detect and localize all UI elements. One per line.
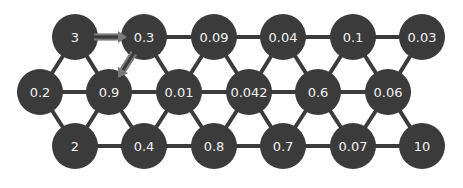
node-label: 0.9 [99, 85, 120, 100]
graph-node: 0.09 [191, 14, 237, 60]
lattice-graph: 30.30.090.040.10.030.20.90.010.0420.60.0… [0, 0, 463, 188]
node-label: 0.8 [204, 139, 225, 154]
graph-node: 0.07 [330, 123, 376, 169]
node-label: 0.07 [339, 139, 368, 154]
graph-node: 10 [399, 123, 445, 169]
graph-node: 0.03 [399, 14, 445, 60]
node-label: 0.04 [269, 30, 298, 45]
node-label: 0.03 [408, 30, 437, 45]
node-label: 0.3 [134, 30, 155, 45]
node-label: 10 [414, 139, 431, 154]
node-label: 2 [71, 139, 79, 154]
graph-node: 0.042 [226, 69, 272, 115]
graph-node: 0.06 [365, 69, 411, 115]
graph-node: 0.6 [295, 69, 341, 115]
node-label: 0.1 [343, 30, 364, 45]
node-label: 3 [71, 30, 79, 45]
graph-node: 0.7 [260, 123, 306, 169]
graph-node: 0.1 [330, 14, 376, 60]
graph-node: 0.01 [156, 69, 202, 115]
node-label: 0.7 [273, 139, 294, 154]
node-label: 0.2 [30, 85, 51, 100]
graph-node: 0.04 [260, 14, 306, 60]
node-label: 0.6 [308, 85, 329, 100]
node-label: 0.09 [200, 30, 229, 45]
graph-node: 2 [52, 123, 98, 169]
node-label: 0.06 [374, 85, 403, 100]
node-label: 0.042 [230, 85, 267, 100]
graph-node: 0.8 [191, 123, 237, 169]
graph-node: 0.2 [17, 69, 63, 115]
graph-node: 0.4 [121, 123, 167, 169]
graph-node: 3 [52, 14, 98, 60]
node-label: 0.01 [165, 85, 194, 100]
graph-node: 0.9 [86, 69, 132, 115]
node-label: 0.4 [134, 139, 155, 154]
graph-node: 0.3 [121, 14, 167, 60]
